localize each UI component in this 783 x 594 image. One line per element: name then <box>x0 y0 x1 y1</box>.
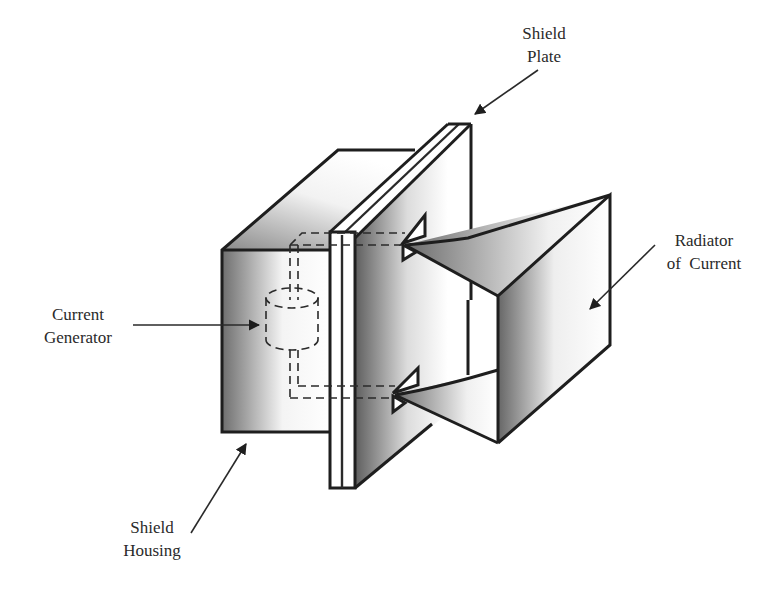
label-shield-plate: Shield Plate <box>522 24 566 66</box>
label-radiator-line2: of Current <box>667 254 742 273</box>
diagram-canvas: Shield Plate Radiator of Current Current… <box>0 0 783 594</box>
label-shield-housing-line2: Housing <box>123 541 181 560</box>
label-current-generator-line2: Generator <box>44 328 112 347</box>
label-current-generator-line1: Current <box>52 305 104 324</box>
label-current-generator: Current Generator <box>44 305 112 347</box>
shield-housing-arrow <box>191 444 246 533</box>
label-radiator: Radiator of Current <box>667 231 742 273</box>
label-shield-plate-line2: Plate <box>527 47 561 66</box>
shield-plate-arrow <box>475 70 538 114</box>
label-shield-plate-line1: Shield <box>522 24 566 43</box>
label-shield-housing: Shield Housing <box>123 518 181 560</box>
label-shield-housing-line1: Shield <box>130 518 174 537</box>
housing-front-face <box>222 250 332 432</box>
label-radiator-line1: Radiator <box>675 231 734 250</box>
